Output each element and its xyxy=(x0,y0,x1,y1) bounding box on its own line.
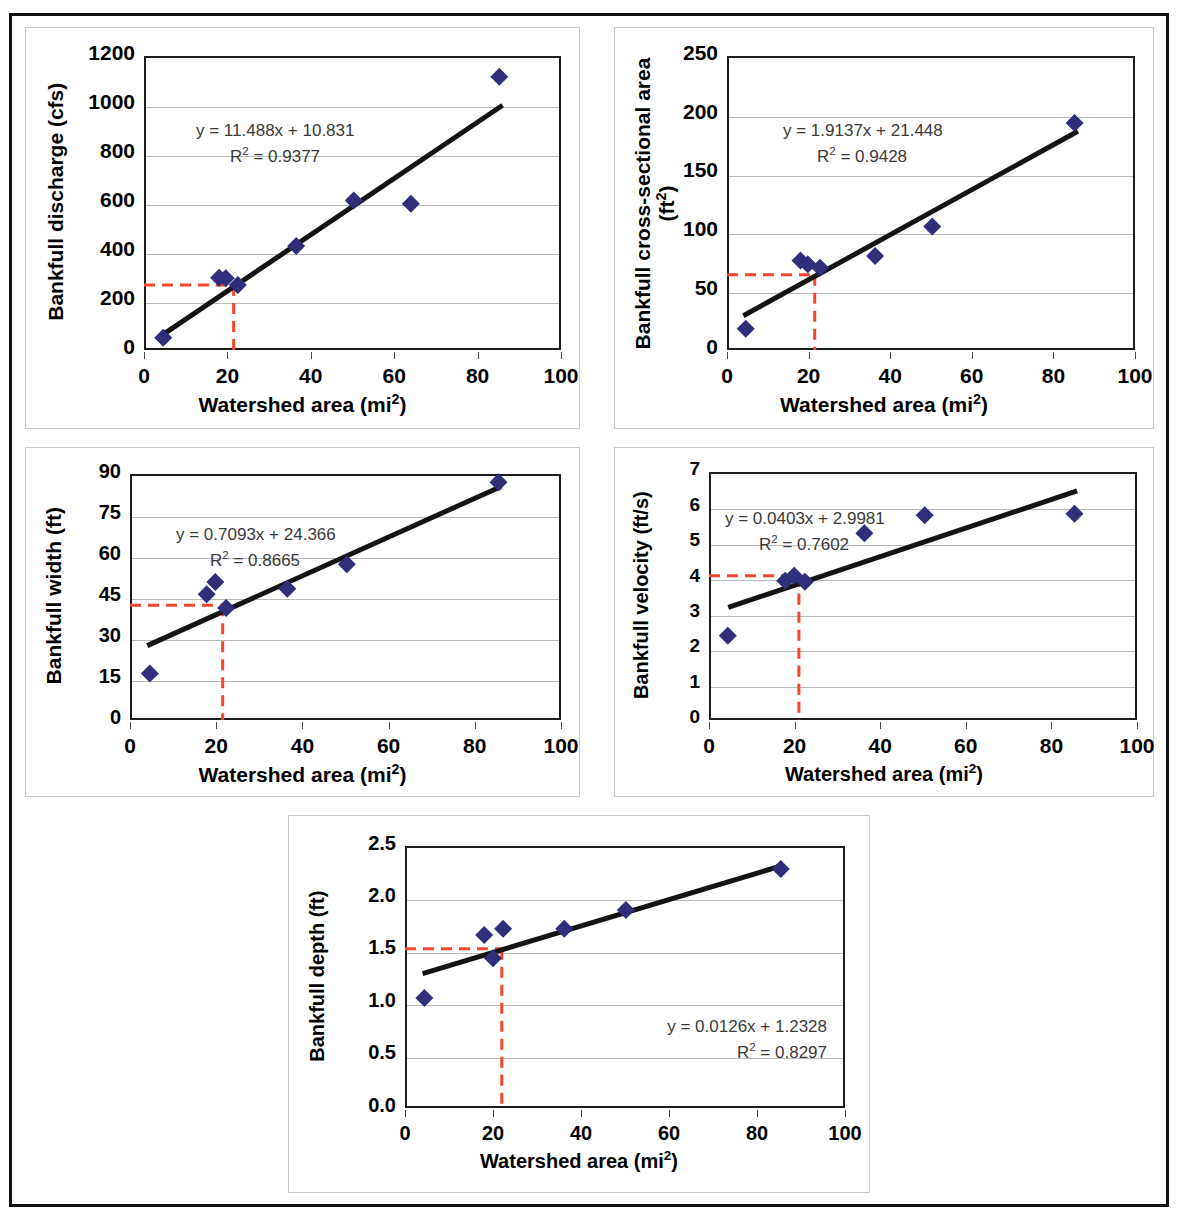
data-point-marker xyxy=(923,218,941,236)
data-point-marker xyxy=(415,989,433,1007)
regression-equation: y = 0.0126x + 1.2328 xyxy=(667,1014,827,1040)
trend-line xyxy=(423,865,784,973)
figure-page: 020040060080010001200020406080100Watersh… xyxy=(0,0,1181,1221)
data-point-marker xyxy=(772,860,790,878)
data-point-marker xyxy=(1066,505,1084,523)
chart-panel-bankfull-discharge: 020040060080010001200020406080100Watersh… xyxy=(25,27,580,429)
chart-bankfull-velocity: 01234567020406080100Watershed area (mi2)… xyxy=(615,448,1153,796)
regression-equation: y = 0.0403x + 2.9981 xyxy=(725,506,885,532)
chart-series-overlay xyxy=(26,28,579,428)
regression-equation: y = 11.488x + 10.831 xyxy=(196,118,354,144)
regression-annotation: y = 1.9137x + 21.448R2 = 0.9428 xyxy=(783,118,943,171)
chart-panel-bankfull-velocity: 01234567020406080100Watershed area (mi2)… xyxy=(614,447,1154,797)
chart-series-overlay xyxy=(26,448,579,796)
regression-annotation: y = 0.0403x + 2.9981R2 = 0.7602 xyxy=(725,506,885,559)
chart-series-overlay xyxy=(615,448,1153,796)
data-point-marker xyxy=(402,195,420,213)
data-point-marker xyxy=(737,320,755,338)
r-squared-value: R2 = 0.9377 xyxy=(196,144,354,170)
data-point-marker xyxy=(866,247,884,265)
data-point-marker xyxy=(490,68,508,86)
data-point-marker xyxy=(719,627,737,645)
chart-series-overlay xyxy=(289,816,869,1192)
data-point-marker xyxy=(916,506,934,524)
regression-annotation: y = 0.7093x + 24.366R2 = 0.8665 xyxy=(176,522,336,575)
r-squared-value: R2 = 0.8297 xyxy=(667,1040,827,1066)
data-point-marker xyxy=(475,926,493,944)
r-squared-value: R2 = 0.8665 xyxy=(176,548,336,574)
chart-bankfull-width: 0153045607590020406080100Watershed area … xyxy=(26,448,579,796)
regression-annotation: y = 11.488x + 10.831R2 = 0.9377 xyxy=(196,118,354,171)
chart-bankfull-depth: 0.00.51.01.52.02.5020406080100Watershed … xyxy=(289,816,869,1192)
r-squared-value: R2 = 0.9428 xyxy=(783,144,943,170)
chart-bankfull-discharge: 020040060080010001200020406080100Watersh… xyxy=(26,28,579,428)
chart-panel-bankfull-cross-sectional-area: 050100150200250020406080100Watershed are… xyxy=(614,27,1154,429)
chart-bankfull-cross-sectional-area: 050100150200250020406080100Watershed are… xyxy=(615,28,1153,428)
regression-equation: y = 0.7093x + 24.366 xyxy=(176,522,336,548)
chart-panel-bankfull-width: 0153045607590020406080100Watershed area … xyxy=(25,447,580,797)
chart-series-overlay xyxy=(615,28,1153,428)
regression-annotation: y = 0.0126x + 1.2328R2 = 0.8297 xyxy=(667,1014,827,1067)
data-point-marker xyxy=(494,920,512,938)
data-point-marker xyxy=(1066,114,1084,132)
data-point-marker xyxy=(345,192,363,210)
regression-equation: y = 1.9137x + 21.448 xyxy=(783,118,943,144)
data-point-marker xyxy=(141,665,159,683)
chart-panel-bankfull-depth: 0.00.51.01.52.02.5020406080100Watershed … xyxy=(288,815,870,1193)
r-squared-value: R2 = 0.7602 xyxy=(725,532,885,558)
